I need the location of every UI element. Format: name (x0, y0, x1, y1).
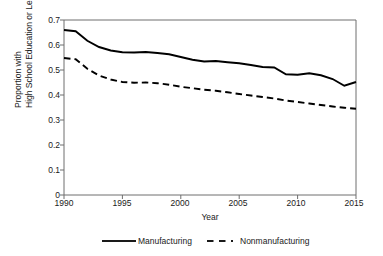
chart-figure: Proportion with High School Education or… (0, 0, 383, 256)
series-line-nonmanufacturing (64, 58, 356, 109)
series-line-manufacturing (64, 30, 356, 86)
x-axis-ticks (64, 195, 356, 199)
legend-label-nonmanufacturing: Nonmanufacturing (240, 236, 309, 246)
y-axis-ticks (60, 20, 64, 195)
plot-area (0, 0, 383, 256)
legend-label-manufacturing: Manufacturing (138, 236, 192, 246)
